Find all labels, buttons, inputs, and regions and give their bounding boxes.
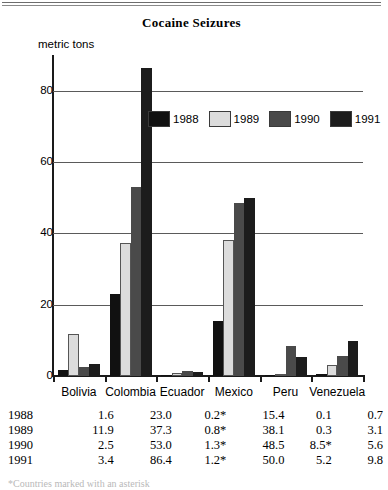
table-cell-colombia: 86.4 (114, 453, 172, 468)
table-cell-colombia: 37.3 (114, 423, 172, 438)
bar-bolivia-1990 (79, 367, 90, 376)
table-cell-mexico: 50.0 (226, 453, 284, 468)
header-rule-top (2, 2, 381, 3)
bar-bolivia-1989 (68, 334, 79, 376)
table-row: 19881.623.00.2*15.40.10.7 (0, 408, 383, 423)
table-cell-colombia: 23.0 (114, 408, 172, 423)
bar-ecuador-1991 (193, 372, 204, 376)
table-footnote: *Countries marked with an asterisk (8, 478, 150, 489)
table-cell-bolivia: 1.6 (61, 408, 114, 423)
x-label-ecuador: Ecuador (160, 385, 205, 399)
table-cell-bolivia: 2.5 (61, 438, 114, 453)
legend-label-1989: 1989 (234, 113, 260, 125)
table-cell-peru: 0.1 (284, 408, 331, 423)
y-tick-80: 80 (13, 84, 53, 96)
table-cell-peru: 8.5* (284, 438, 331, 453)
legend-swatch-1991 (330, 111, 352, 127)
bar-peru-1991 (296, 357, 307, 376)
gridline-20 (53, 305, 363, 306)
table-cell-ecuador: 0.2* (172, 408, 227, 423)
y-axis-unit-label: metric tons (38, 38, 94, 50)
bar-peru-1989 (275, 374, 286, 376)
legend-item-1989: 1989 (209, 111, 260, 127)
chart-title: Cocaine Seizures (0, 15, 383, 31)
y-tick-20: 20 (13, 298, 53, 310)
legend-label-1990: 1990 (294, 113, 320, 125)
bar-mexico-1989 (223, 240, 234, 376)
table-cell-venezuela: 9.8 (332, 453, 383, 468)
x-label-peru: Peru (273, 385, 298, 399)
table-cell-colombia: 53.0 (114, 438, 172, 453)
y-tick-60: 60 (13, 155, 53, 167)
bar-mexico-1988 (213, 321, 224, 376)
legend-swatch-1990 (269, 111, 291, 127)
bar-ecuador-1990 (182, 371, 193, 376)
x-tick-bolivia (53, 375, 55, 382)
table-row: 19913.486.41.2*50.05.29.8 (0, 453, 383, 468)
bar-venezuela-1988 (316, 374, 327, 376)
table-row-year: 1990 (0, 438, 61, 453)
x-tick-ecuador (156, 375, 158, 382)
bar-ecuador-1989 (172, 373, 183, 376)
table-row-year: 1988 (0, 408, 61, 423)
x-tick-colombia (105, 375, 107, 382)
bar-colombia-1989 (120, 243, 131, 376)
table-row: 198911.937.30.8*38.10.33.1 (0, 423, 383, 438)
gridline-60 (53, 162, 363, 163)
table-cell-bolivia: 11.9 (61, 423, 114, 438)
x-tick-mexico (208, 375, 210, 382)
header-rule-bottom (2, 5, 381, 6)
y-tick-0: 0 (13, 369, 53, 381)
bar-venezuela-1989 (327, 365, 338, 376)
legend-item-1990: 1990 (269, 111, 320, 127)
bar-venezuela-1991 (348, 341, 359, 376)
legend-item-1988: 1988 (148, 111, 199, 127)
bar-bolivia-1988 (58, 370, 69, 376)
table-cell-venezuela: 0.7 (332, 408, 383, 423)
bar-colombia-1988 (110, 294, 121, 376)
y-axis-line (52, 55, 54, 376)
bar-mexico-1991 (244, 198, 255, 376)
bar-mexico-1990 (234, 203, 245, 376)
gridline-40 (53, 233, 363, 234)
bar-ecuador-1988 (161, 375, 172, 376)
x-label-colombia: Colombia (105, 385, 156, 399)
x-tick-peru (260, 375, 262, 382)
y-tick-40: 40 (13, 226, 53, 238)
legend-label-1991: 1991 (355, 113, 381, 125)
chart-legend: 1988198919901991 (148, 111, 388, 127)
table-cell-venezuela: 3.1 (332, 423, 383, 438)
x-tick-venezuela (311, 375, 313, 382)
table-cell-ecuador: 1.2* (172, 453, 227, 468)
bar-venezuela-1990 (337, 356, 348, 376)
legend-swatch-1989 (209, 111, 231, 127)
legend-label-1988: 1988 (173, 113, 199, 125)
chart-plot-area (53, 55, 363, 376)
x-label-mexico: Mexico (215, 385, 253, 399)
legend-swatch-1988 (148, 111, 170, 127)
table-row-year: 1991 (0, 453, 61, 468)
table-row: 19902.553.01.3*48.58.5*5.6 (0, 438, 383, 453)
bar-peru-1990 (286, 346, 297, 376)
x-tick-end (363, 375, 365, 382)
table-row-year: 1989 (0, 423, 61, 438)
gridline-80 (53, 91, 363, 92)
y-axis-tick-labels: 020406080 (8, 55, 53, 376)
table-cell-ecuador: 0.8* (172, 423, 227, 438)
table-cell-mexico: 48.5 (226, 438, 284, 453)
table-cell-mexico: 15.4 (226, 408, 284, 423)
bar-bolivia-1991 (89, 364, 100, 376)
data-table: 19881.623.00.2*15.40.10.7198911.937.30.8… (0, 408, 383, 468)
table-cell-peru: 0.3 (284, 423, 331, 438)
table-cell-venezuela: 5.6 (332, 438, 383, 453)
x-label-bolivia: Bolivia (61, 385, 96, 399)
legend-item-1991: 1991 (330, 111, 381, 127)
bar-peru-1988 (265, 375, 276, 376)
table-cell-bolivia: 3.4 (61, 453, 114, 468)
table-cell-peru: 5.2 (284, 453, 331, 468)
x-label-venezuela: Venezuela (309, 385, 365, 399)
table-cell-ecuador: 1.3* (172, 438, 227, 453)
table-cell-mexico: 38.1 (226, 423, 284, 438)
bar-colombia-1990 (131, 187, 142, 376)
